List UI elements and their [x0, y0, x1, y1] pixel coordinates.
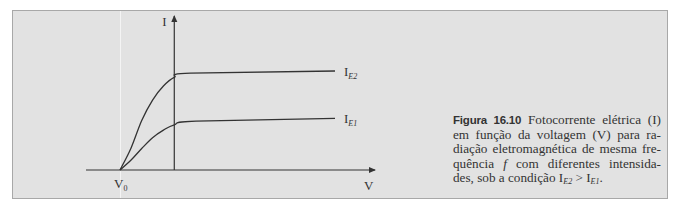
v0-label: V0	[114, 176, 127, 193]
x-axis-label: V	[364, 178, 374, 193]
series-layer	[120, 71, 335, 170]
caption-line-1: Figura 16.10 Fotocorrente elétrica (I)	[453, 113, 661, 128]
v0-sub: 0	[123, 184, 127, 193]
caption-line-3: diação eletromagnética de mesma fre-	[453, 142, 661, 157]
figure-number: Figura 16.10	[453, 114, 521, 126]
caption-line-4: quência f com diferentes intensida-	[453, 157, 661, 172]
series-label-i-e2: IE2	[344, 64, 357, 81]
figure-caption: Figura 16.10 Fotocorrente elétrica (I) e…	[453, 113, 661, 186]
series-line-i-e1	[120, 118, 335, 170]
caption-line-5: des, sob a condição IE2 > IE1.	[453, 171, 661, 186]
caption-line-2: em função da voltagem (V) para ra-	[453, 128, 661, 143]
series-labels: IE2IE1	[344, 64, 357, 128]
y-axis-label: I	[162, 14, 166, 29]
ie2-symbol: IE2	[559, 170, 572, 185]
series-label-i-e1: IE1	[344, 111, 357, 128]
ie1-symbol: IE1	[586, 170, 599, 185]
